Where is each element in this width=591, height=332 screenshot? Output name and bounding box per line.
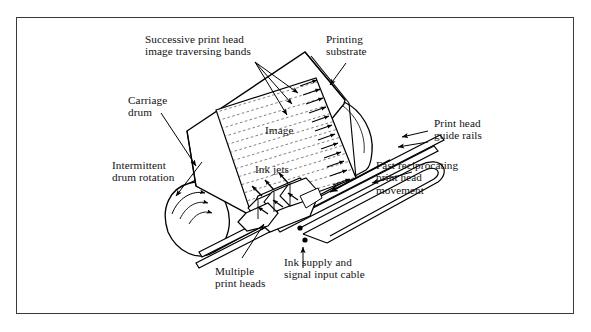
leader-rails-1: [402, 131, 428, 137]
printer-diagram: [0, 0, 591, 332]
label-fast-reciprocating: Fast reciprocating print head movement: [376, 159, 458, 196]
label-image: Image: [265, 124, 293, 136]
cable-end-terminals: [297, 225, 307, 242]
label-multiple-print-heads: Multiple print heads: [215, 265, 266, 290]
label-ink-supply-cable: Ink supply and signal input cable: [284, 256, 365, 281]
leader-substrate: [330, 63, 346, 85]
label-printing-substrate: Printing substrate: [326, 33, 367, 58]
label-intermittent-rotation: Intermittent drum rotation: [112, 159, 175, 184]
label-carriage-drum: Carriage drum: [128, 94, 167, 119]
label-successive-bands: Successive print head image traversing b…: [145, 33, 251, 58]
label-ink-jets: Ink jets: [255, 163, 289, 175]
label-print-head-guide-rails: Print head guide rails: [434, 117, 482, 142]
figure-page: Successive print head image traversing b…: [0, 0, 591, 332]
